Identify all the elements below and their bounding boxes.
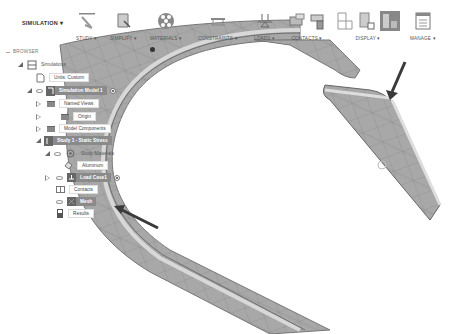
materials-button[interactable]: MATERIALS ▾ bbox=[150, 10, 182, 41]
workspace-switcher[interactable]: SIMULATION ▾ bbox=[22, 20, 63, 26]
activate-radio[interactable] bbox=[114, 175, 120, 181]
load-case-icon bbox=[67, 173, 76, 182]
constraints-label: CONSTRAINTS ▾ bbox=[198, 36, 238, 41]
manage-label: MANAGE ▾ bbox=[410, 36, 436, 41]
display-label: DISPLAY ▾ bbox=[355, 36, 380, 41]
expand-icon[interactable] bbox=[45, 175, 50, 181]
simplify-button[interactable]: SIMPLIFY ▾ bbox=[110, 10, 137, 41]
simplify-label: SIMPLIFY ▾ bbox=[110, 36, 137, 41]
study-label: STUDY ▾ bbox=[76, 36, 97, 41]
model-icon bbox=[46, 86, 55, 96]
document-icon bbox=[36, 73, 45, 83]
display-lock-icon bbox=[358, 11, 376, 31]
mesh-icon bbox=[67, 197, 76, 206]
loads-label: LOADS ▾ bbox=[254, 36, 275, 41]
display-active-icon bbox=[380, 11, 400, 31]
contacts-button[interactable]: CONTACTS ▾ bbox=[288, 10, 326, 41]
tree-item-origin[interactable]: Origin bbox=[36, 111, 96, 122]
browser-header[interactable]: – BROWSER bbox=[6, 46, 156, 56]
tree-label: Study 1 - Static Stress bbox=[53, 136, 112, 145]
tree-item-model-components[interactable]: Model Components bbox=[36, 123, 111, 134]
tree-label: Aluminum bbox=[77, 161, 108, 170]
tree-item-named-views[interactable]: Named Views bbox=[36, 98, 99, 109]
materials-tree-icon bbox=[66, 149, 75, 158]
results-icon bbox=[57, 209, 63, 218]
constraints-icon bbox=[208, 11, 228, 31]
activate-radio[interactable] bbox=[110, 88, 116, 94]
manage-icon bbox=[414, 11, 432, 31]
pin-icon[interactable] bbox=[150, 47, 155, 52]
folder-icon bbox=[47, 101, 55, 107]
tree-label: Contacts bbox=[69, 185, 98, 194]
tree-label: Origin bbox=[73, 112, 96, 121]
tree-label: Mesh bbox=[76, 197, 96, 206]
visibility-icon[interactable] bbox=[56, 200, 63, 204]
visibility-icon[interactable] bbox=[54, 152, 61, 156]
study-button[interactable]: STUDY ▾ bbox=[76, 10, 97, 41]
contacts-tree-icon bbox=[56, 186, 65, 193]
expand-icon[interactable] bbox=[18, 62, 23, 67]
loads-icon bbox=[255, 11, 275, 31]
material-icon bbox=[64, 161, 73, 170]
visibility-icon[interactable] bbox=[36, 89, 43, 93]
tree-item-simulations[interactable]: Simulations bbox=[18, 59, 66, 70]
expand-icon[interactable] bbox=[45, 151, 50, 156]
toolbar: SIMULATION ▾ STUDY ▾ SIMPLIFY ▾ MATERIAL… bbox=[0, 0, 451, 44]
expand-icon[interactable] bbox=[36, 126, 41, 132]
simplify-icon bbox=[114, 11, 134, 31]
expand-icon[interactable] bbox=[36, 101, 41, 107]
display-button[interactable]: DISPLAY ▾ bbox=[336, 10, 400, 41]
tree-item-units[interactable]: Units: Custom bbox=[36, 72, 89, 83]
simulations-icon bbox=[27, 60, 37, 70]
tree-item-study[interactable]: Study 1 - Static Stress bbox=[36, 135, 112, 146]
expand-icon[interactable] bbox=[36, 114, 41, 120]
study-tree-icon bbox=[44, 136, 53, 146]
materials-label: MATERIALS ▾ bbox=[150, 36, 182, 41]
tree-item-simulation-model[interactable]: Simulation Model 1 bbox=[27, 85, 116, 96]
tree-item-load-case[interactable]: Load Case1 bbox=[45, 172, 120, 183]
folder-icon bbox=[61, 114, 69, 120]
study-icon bbox=[77, 11, 97, 31]
tree-item-aluminum[interactable]: Aluminum bbox=[64, 160, 108, 171]
constraints-button[interactable]: CONSTRAINTS ▾ bbox=[198, 10, 238, 41]
collapse-icon[interactable]: – bbox=[6, 48, 10, 55]
tree-label: Simulation Model 1 bbox=[55, 86, 107, 95]
materials-icon bbox=[156, 11, 176, 31]
tree-item-study-materials[interactable]: Study Materials bbox=[45, 148, 114, 159]
tree-label: Simulations bbox=[41, 62, 66, 67]
tree-label: Results bbox=[68, 209, 94, 218]
display-split-icon bbox=[336, 11, 354, 31]
tree-label: Units: Custom bbox=[49, 73, 89, 82]
contacts-icon bbox=[288, 11, 306, 31]
tree-label: Model Components bbox=[59, 124, 111, 133]
tree-item-results[interactable]: Results bbox=[57, 208, 94, 219]
visibility-icon[interactable] bbox=[56, 176, 63, 180]
browser-title: BROWSER bbox=[13, 49, 39, 54]
tree-item-mesh[interactable]: Mesh bbox=[56, 196, 96, 207]
expand-icon[interactable] bbox=[36, 138, 41, 143]
tree-label: Study Materials bbox=[81, 151, 114, 156]
contacts-manager-icon bbox=[310, 11, 326, 31]
tree-label: Load Case1 bbox=[76, 173, 111, 182]
folder-icon bbox=[47, 126, 55, 132]
manage-button[interactable]: MANAGE ▾ bbox=[410, 10, 436, 41]
loads-button[interactable]: LOADS ▾ bbox=[254, 10, 275, 41]
expand-icon[interactable] bbox=[27, 88, 32, 93]
tree-item-contacts[interactable]: Contacts bbox=[56, 184, 98, 195]
contacts-label: CONTACTS ▾ bbox=[291, 36, 322, 41]
tree-label: Named Views bbox=[59, 99, 99, 108]
